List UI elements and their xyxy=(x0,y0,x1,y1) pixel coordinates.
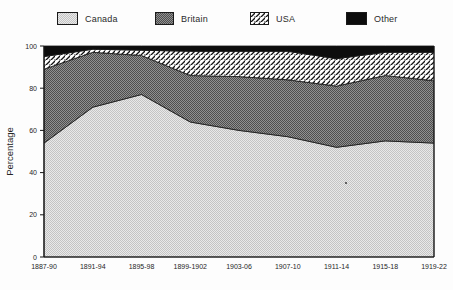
y-tick-label: 100 xyxy=(25,43,37,50)
x-tick-label: 1899-1902 xyxy=(174,263,208,270)
y-tick-label: 20 xyxy=(29,211,37,218)
y-axis-title: Percentage xyxy=(4,127,15,176)
x-tick-label: 1911-14 xyxy=(324,263,349,270)
x-tick-label: 1891-94 xyxy=(80,263,106,270)
y-tick-label: 40 xyxy=(29,169,37,176)
x-tick-label: 1887-90 xyxy=(31,263,57,270)
chart-svg: 0204060801001887-901891-941895-981899-19… xyxy=(0,0,453,290)
print-speck xyxy=(345,182,347,184)
stacked-area-chart: 0204060801001887-901891-941895-981899-19… xyxy=(0,0,453,290)
x-tick-label: 1895-98 xyxy=(129,263,155,270)
x-tick-label: 1915-18 xyxy=(372,263,398,270)
x-tick-label: 1907-10 xyxy=(275,263,301,270)
y-tick-label: 0 xyxy=(33,254,37,261)
figure-canvas: Canada Britain USA Other 020406080100188… xyxy=(0,0,453,290)
x-tick-label: 1919-22 xyxy=(421,263,447,270)
x-tick-label: 1903-06 xyxy=(226,263,252,270)
y-tick-label: 80 xyxy=(29,85,37,92)
y-tick-label: 60 xyxy=(29,127,37,134)
